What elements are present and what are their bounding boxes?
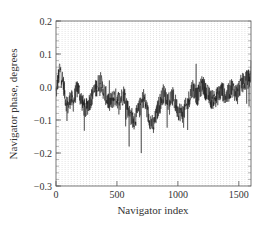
x-tick-label: 1000: [168, 189, 188, 200]
y-tick-label: 0.0: [40, 82, 53, 93]
y-axis-ticks: 0.20.10.0−0.1−0.2−0.3: [34, 16, 61, 192]
x-tick-label: 1500: [229, 189, 249, 200]
y-tick-label: 0.2: [40, 16, 53, 27]
x-tick-label: 500: [109, 189, 124, 200]
y-tick-label: −0.1: [34, 115, 52, 126]
x-axis-ticks: 050010001500: [54, 181, 249, 200]
chart: 0.20.10.0−0.1−0.2−0.3 050010001500 Navig…: [0, 0, 268, 227]
y-tick-label: 0.1: [40, 49, 53, 60]
y-tick-label: −0.3: [34, 181, 52, 192]
x-tick-label: 0: [54, 189, 59, 200]
x-axis-title: Navigator index: [117, 204, 189, 216]
y-tick-label: −0.2: [34, 148, 52, 159]
y-axis-title: Navigator phase, degrees: [7, 49, 19, 160]
